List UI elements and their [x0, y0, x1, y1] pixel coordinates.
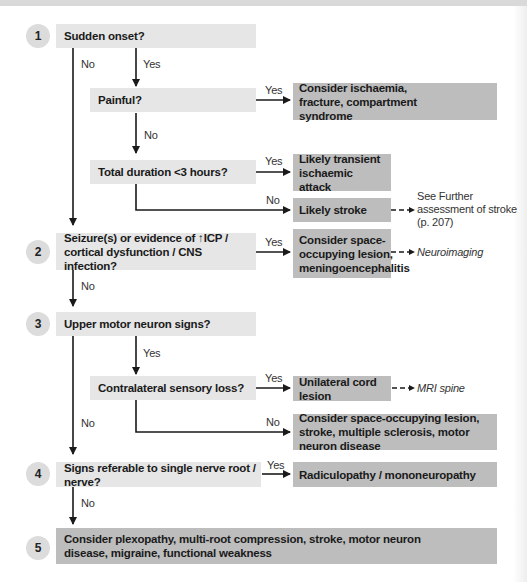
label-no: No [81, 417, 95, 429]
label-no: No [266, 194, 280, 206]
step-4-badge: 4 [26, 462, 50, 486]
question-contralateral-sensory: Contralateral sensory loss? [90, 376, 256, 400]
outcome-plexopathy: Consider plexopathy, multi-root compress… [56, 528, 497, 564]
outcome-space-occupying-stroke: Consider space-occupying lesion, stroke,… [293, 414, 497, 450]
question-single-nerve-root: Signs referable to single nerve root / n… [56, 462, 261, 487]
label-yes: Yes [265, 84, 282, 96]
label-no: No [144, 129, 158, 141]
step-5-badge: 5 [26, 536, 50, 560]
question-total-duration: Total duration <3 hours? [90, 160, 256, 184]
label-yes: Yes [265, 236, 282, 248]
note-neuroimaging: Neuroimaging [417, 246, 483, 259]
outcome-likely-stroke: Likely stroke [293, 198, 391, 222]
outcome-tia: Likely transient ischaemic attack [293, 154, 391, 191]
label-yes: Yes [267, 459, 284, 471]
label-yes: Yes [143, 347, 160, 359]
note-neuroimaging-text: Neuroimaging [417, 246, 483, 258]
label-no: No [81, 280, 95, 292]
question-painful: Painful? [90, 88, 256, 112]
label-yes: Yes [143, 58, 160, 70]
question-seizures: Seizure(s) or evidence of ↑ICP / cortica… [56, 233, 256, 270]
note-line: See Further [417, 190, 517, 203]
note-mri-spine-text: MRI spine [417, 382, 465, 394]
label-yes: Yes [265, 155, 282, 167]
note-further-assessment-stroke: See Further assessment of stroke (p. 207… [417, 190, 517, 229]
outcome-radiculopathy: Radiculopathy / mononeuropathy [293, 462, 497, 487]
label-no: No [81, 497, 95, 509]
label-no: No [266, 416, 280, 428]
note-line: (p. 207) [417, 216, 517, 229]
step-2-badge: 2 [26, 240, 50, 264]
outcome-ischaemia: Consider ischaemia, fracture, compartmen… [293, 83, 497, 120]
step-1-badge: 1 [26, 24, 50, 48]
outcome-unilateral-cord: Unilateral cord lesion [293, 376, 391, 401]
question-upper-motor-neuron: Upper motor neuron signs? [56, 312, 256, 336]
question-sudden-onset: Sudden onset? [56, 24, 256, 48]
note-line: assessment of stroke [417, 203, 517, 216]
label-no: No [81, 58, 95, 70]
outcome-space-occupying: Consider space-occupying lesion, meningo… [293, 229, 391, 278]
label-yes: Yes [265, 372, 282, 384]
note-mri-spine: MRI spine [417, 382, 465, 395]
step-3-badge: 3 [26, 312, 50, 336]
